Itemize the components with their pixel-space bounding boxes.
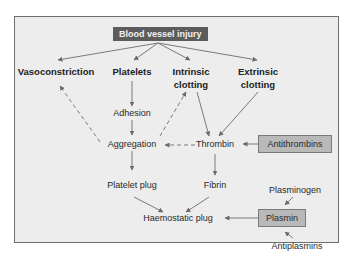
arrow-fibrin-haemostatic xyxy=(186,197,209,212)
arrow-injury-platelets xyxy=(134,43,158,60)
extrinsic-clotting-node: Extrinsic clotting xyxy=(238,66,278,90)
arrow-extrinsic-thrombin xyxy=(219,92,258,136)
extrinsic-clotting-line1: Extrinsic xyxy=(238,66,278,77)
blood-vessel-injury-box: Blood vessel injury xyxy=(113,27,208,41)
arrow-plasminogen-plasmin xyxy=(285,197,293,205)
plasminogen-node: Plasminogen xyxy=(269,185,321,196)
arrow-injury-vasoconstriction xyxy=(58,43,158,60)
arrow-injury-extrinsic xyxy=(158,43,257,60)
fibrin-node: Fibrin xyxy=(204,180,227,191)
thrombin-node: Thrombin xyxy=(196,139,234,150)
antiplasmins-node: Antiplasmins xyxy=(271,241,322,252)
antithrombins-box: Antithrombins xyxy=(258,135,332,153)
platelets-node: Platelets xyxy=(112,66,151,77)
adhesion-node: Adhesion xyxy=(113,108,151,119)
intrinsic-clotting-node: Intrinsic clotting xyxy=(173,66,210,90)
extrinsic-clotting-line2: clotting xyxy=(238,79,278,90)
arrow-aggregation-vasoconstriction xyxy=(60,86,100,142)
arrow-antiplasmins-plasmin xyxy=(285,232,293,238)
intrinsic-clotting-line1: Intrinsic xyxy=(173,66,210,77)
vasoconstriction-node: Vasoconstriction xyxy=(18,66,95,77)
platelet-plug-node: Platelet plug xyxy=(107,180,157,191)
arrow-aggregation-intrinsic xyxy=(160,92,186,136)
aggregation-node: Aggregation xyxy=(108,139,157,150)
arrow-plateletplug-haemostatic xyxy=(134,197,163,212)
haemostatic-plug-node: Haemostatic plug xyxy=(143,213,213,224)
plasmin-box: Plasmin xyxy=(258,209,306,227)
arrow-intrinsic-thrombin xyxy=(197,92,209,136)
intrinsic-clotting-line2: clotting xyxy=(173,79,210,90)
